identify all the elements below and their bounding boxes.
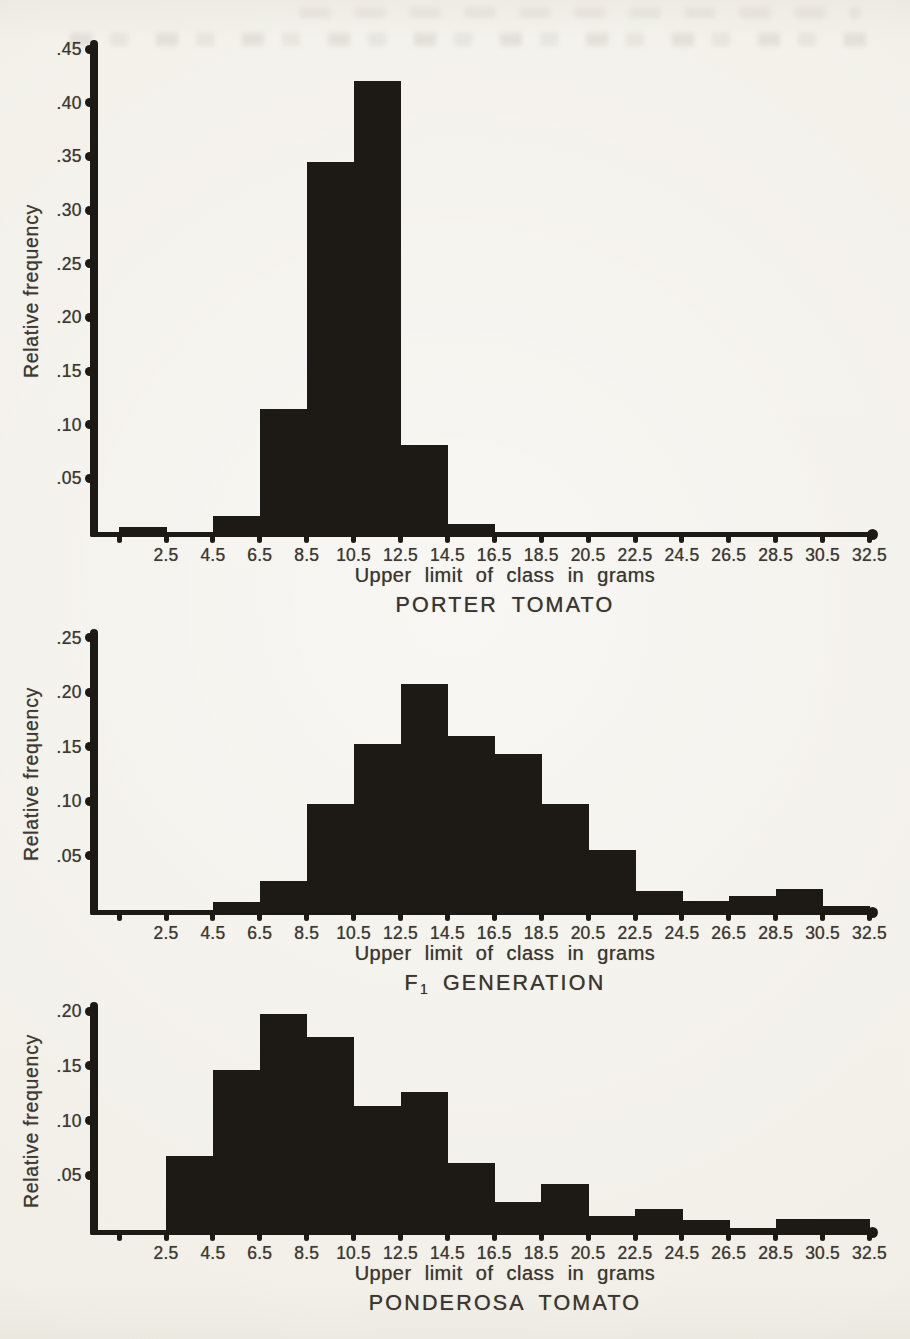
x-tick-mark	[351, 1232, 356, 1241]
x-axis-title: Upper limit of class in grams	[105, 1262, 905, 1285]
x-tick-mark	[773, 1232, 778, 1241]
x-tick-mark	[492, 1232, 497, 1241]
x-tick-label: 4.5	[187, 1243, 239, 1263]
x-tick-mark	[820, 1232, 825, 1241]
histogram-bar	[354, 1106, 402, 1233]
x-tick-mark	[257, 1232, 262, 1241]
x-tick-label: 20.5	[562, 1243, 614, 1263]
x-tick-label: 28.5	[750, 1243, 802, 1263]
histogram-bar	[401, 1092, 449, 1233]
x-tick-mark	[679, 1232, 684, 1241]
x-tick-label: 8.5	[281, 1243, 333, 1263]
x-tick-mark	[633, 1232, 638, 1241]
x-tick-label: 2.5	[140, 1243, 192, 1263]
y-axis-title: Relative frequency	[20, 1033, 43, 1207]
x-tick-mark	[164, 1232, 169, 1241]
x-tick-label: 24.5	[656, 1243, 708, 1263]
histogram-bar	[541, 1184, 589, 1233]
x-tick-label: 10.5	[328, 1243, 380, 1263]
x-tick-mark	[539, 1232, 544, 1241]
x-tick-mark	[210, 1232, 215, 1241]
histogram-bar	[307, 1037, 355, 1233]
chart-title: PONDEROSA TOMATO	[105, 1291, 905, 1316]
histogram-bar	[166, 1156, 214, 1233]
y-tick-mark	[85, 1116, 94, 1125]
chart-title-text: PONDEROSA TOMATO	[369, 1291, 642, 1315]
x-tick-mark	[304, 1232, 309, 1241]
scanned-page: .05.10.15.20.25.30.35.40.452.54.56.58.51…	[0, 0, 910, 1339]
y-tick-mark	[85, 1007, 94, 1016]
y-tick-mark	[85, 1171, 94, 1180]
x-tick-label: 18.5	[515, 1243, 567, 1263]
x-tick-label: 14.5	[421, 1243, 473, 1263]
x-tick-mark	[398, 1232, 403, 1241]
x-tick-mark	[445, 1232, 450, 1241]
chart-ponderosa-tomato: .05.10.15.202.54.56.58.510.512.514.516.5…	[0, 0, 910, 1339]
y-tick-label: .15	[36, 1056, 82, 1076]
x-tick-label: 26.5	[703, 1243, 755, 1263]
x-tick-mark	[117, 1232, 122, 1241]
x-tick-mark	[726, 1232, 731, 1241]
histogram-bar	[494, 1202, 542, 1233]
x-tick-label: 16.5	[468, 1243, 520, 1263]
y-tick-label: .05	[36, 1165, 82, 1185]
y-tick-label: .20	[36, 1001, 82, 1021]
histogram-bar	[260, 1014, 308, 1233]
x-tick-mark	[586, 1232, 591, 1241]
x-tick-label: 12.5	[375, 1243, 427, 1263]
y-tick-label: .10	[36, 1111, 82, 1131]
x-tick-mark	[867, 1232, 872, 1241]
x-tick-label: 32.5	[844, 1243, 896, 1263]
x-tick-label: 6.5	[234, 1243, 286, 1263]
x-tick-label: 22.5	[609, 1243, 661, 1263]
histogram-bar	[447, 1163, 495, 1233]
x-tick-label: 30.5	[797, 1243, 849, 1263]
x-axis	[90, 1230, 875, 1235]
histogram-bar	[213, 1070, 261, 1233]
